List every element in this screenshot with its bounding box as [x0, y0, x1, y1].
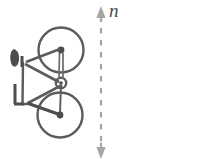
axis-arrowhead-down — [96, 143, 105, 159]
axis-label-n: n — [109, 1, 119, 20]
diagram-canvas — [0, 0, 198, 164]
axis-arrowhead-up — [96, 6, 105, 22]
bicycle-left — [11, 28, 84, 138]
rotation-axis-figure: n — [0, 0, 198, 164]
rotation-axis — [96, 6, 105, 159]
